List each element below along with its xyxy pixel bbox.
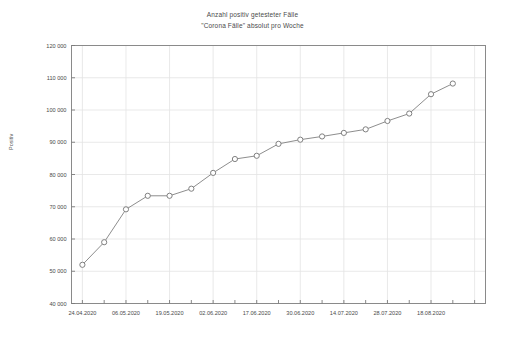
data-point <box>145 193 150 198</box>
y-tick-label: 50 000 <box>49 268 66 274</box>
y-tick-label: 100 000 <box>46 107 66 113</box>
data-point <box>276 141 281 146</box>
data-point <box>123 207 128 212</box>
data-point <box>211 170 216 175</box>
data-point <box>319 134 324 139</box>
data-point <box>298 137 303 142</box>
y-tick-label: 70 000 <box>49 204 66 210</box>
data-point <box>407 111 412 116</box>
x-tick-label: 18.08.2020 <box>417 310 445 316</box>
x-tick-label: 24.04.2020 <box>68 310 96 316</box>
x-tick-label: 06.05.2020 <box>112 310 140 316</box>
y-tick-label: 120 000 <box>46 43 66 49</box>
data-point <box>189 186 194 191</box>
data-point <box>450 81 455 86</box>
data-point <box>80 262 85 267</box>
chart-container: Anzahl positiv getesteter Fälle "Corona … <box>0 0 505 343</box>
x-tick-label: 02.06.2020 <box>199 310 227 316</box>
x-tick-label: 28.07.2020 <box>373 310 401 316</box>
plot-area: 120 000110 000100 00090 00080 00070 0006… <box>0 0 505 343</box>
y-tick-label: 60 000 <box>49 236 66 242</box>
data-point <box>363 127 368 132</box>
data-point <box>102 240 107 245</box>
y-tick-label: 80 000 <box>49 172 66 178</box>
data-point <box>341 130 346 135</box>
data-point <box>385 118 390 123</box>
x-tick-label: 17.06.2020 <box>243 310 271 316</box>
y-tick-label: 90 000 <box>49 139 66 145</box>
y-tick-label: 40 000 <box>49 301 66 307</box>
x-tick-label: 19.05.2020 <box>156 310 184 316</box>
y-tick-label: 110 000 <box>47 75 67 81</box>
x-tick-label: 30.06.2020 <box>286 310 314 316</box>
data-point <box>254 153 259 158</box>
x-tick-label: 14.07.2020 <box>330 310 358 316</box>
data-point <box>428 92 433 97</box>
data-point <box>232 156 237 161</box>
data-point <box>167 193 172 198</box>
